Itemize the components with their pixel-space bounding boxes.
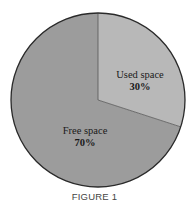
free-space-percent: 70%: [75, 137, 96, 148]
used-space-percent: 30%: [130, 81, 151, 92]
free-space-label: Free space: [63, 125, 108, 136]
pie-chart: Used space 30% Free space 70%: [0, 0, 189, 208]
figure-caption: FIGURE 1: [0, 191, 189, 202]
used-space-label: Used space: [116, 69, 164, 80]
